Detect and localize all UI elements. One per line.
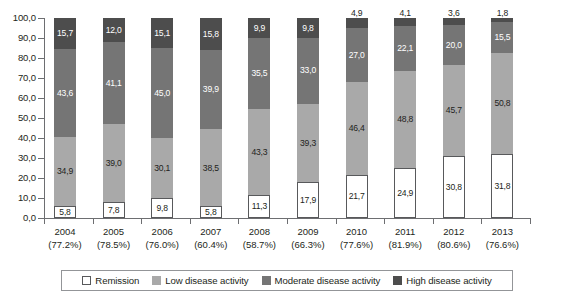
bar-segment-high[interactable]: 15,7 [54, 18, 76, 49]
bar-segment-remission[interactable]: 9,8 [151, 198, 173, 218]
legend-label: Remission [95, 275, 139, 286]
bar-2013[interactable]: 31,850,815,51,8 [491, 18, 513, 218]
bar-segment-moderate[interactable]: 43,6 [54, 49, 76, 136]
bar-segment-low[interactable]: 43,3 [248, 109, 270, 196]
bar-segment-remission[interactable]: 24,9 [394, 168, 416, 218]
x-axis-tick [530, 219, 531, 224]
bar-segment-value: 15,8 [203, 30, 219, 39]
bar-segment-remission[interactable]: 17,9 [297, 182, 319, 218]
bar-segment-value: 46,4 [349, 124, 365, 133]
bar-segment-remission[interactable]: 31,8 [491, 154, 513, 218]
bar-segment-low[interactable]: 38,5 [200, 129, 222, 206]
bar-segment-low[interactable]: 30,1 [151, 138, 173, 198]
bar-2005[interactable]: 7,839,041,112,0 [103, 18, 125, 218]
bar-segment-high[interactable]: 9,8 [297, 18, 319, 38]
bar-segment-value: 7,8 [108, 206, 119, 215]
y-axis-tick-label: 50,0 [0, 112, 36, 123]
bar-segment-value: 9,8 [302, 24, 313, 33]
bar-2011[interactable]: 24,948,822,14,1 [394, 18, 416, 218]
x-axis-tick [433, 219, 434, 224]
bar-2008[interactable]: 11,343,335,59,9 [248, 18, 270, 218]
bar-segment-high[interactable]: 3,6 [443, 18, 465, 25]
bar-segment-value: 4,9 [351, 8, 362, 18]
bar-2004[interactable]: 5,834,943,615,7 [54, 18, 76, 218]
y-axis-tick-label: 90,0 [0, 32, 36, 43]
bar-segment-moderate[interactable]: 41,1 [103, 42, 125, 124]
bar-segment-value: 22,1 [397, 44, 413, 53]
bar-segment-value: 45,7 [446, 106, 462, 115]
plot-area: 5,834,943,615,77,839,041,112,09,830,145,… [44, 18, 531, 218]
bar-segment-value: 39,0 [106, 159, 122, 168]
bar-segment-remission[interactable]: 11,3 [248, 195, 270, 218]
bar-segment-low[interactable]: 46,4 [346, 82, 368, 175]
bar-segment-remission[interactable]: 5,8 [200, 206, 222, 218]
bar-segment-remission[interactable]: 30,8 [443, 156, 465, 218]
bar-segment-moderate[interactable]: 33,0 [297, 38, 319, 104]
bar-segment-value: 41,1 [106, 79, 122, 88]
bar-segment-value: 34,9 [57, 167, 73, 176]
bar-segment-high[interactable]: 15,1 [151, 18, 173, 48]
bar-segment-value: 30,8 [446, 183, 462, 192]
y-axis-tick-label: 0,0 [0, 212, 36, 223]
bar-segment-value: 1,8 [497, 8, 508, 18]
bar-segment-value: 9,8 [157, 204, 168, 213]
bar-segment-moderate[interactable]: 35,5 [248, 38, 270, 109]
x-axis-tick [238, 219, 239, 224]
bar-segment-value: 33,0 [300, 66, 316, 75]
legend-label: Low disease activity [165, 275, 248, 286]
bar-segment-moderate[interactable]: 39,9 [200, 50, 222, 130]
bar-segment-moderate[interactable]: 27,0 [346, 28, 368, 82]
bar-segment-low[interactable]: 48,8 [394, 71, 416, 169]
legend-item-high[interactable]: High disease activity [393, 275, 491, 286]
bar-segment-value: 15,7 [57, 29, 73, 38]
y-axis-tick-label: 80,0 [0, 52, 36, 63]
bar-segment-value: 12,0 [106, 26, 122, 35]
bar-segment-remission[interactable]: 7,8 [103, 202, 125, 218]
legend-item-moderate[interactable]: Moderate disease activity [262, 275, 381, 286]
bar-segment-low[interactable]: 45,7 [443, 65, 465, 156]
bar-segment-high[interactable]: 9,9 [248, 18, 270, 38]
bar-2012[interactable]: 30,845,720,03,6 [443, 18, 465, 218]
bar-segment-low[interactable]: 39,0 [103, 124, 125, 202]
bar-segment-low[interactable]: 34,9 [54, 137, 76, 207]
bar-segment-low[interactable]: 50,8 [491, 53, 513, 155]
bar-segment-value: 9,9 [254, 24, 265, 33]
legend-swatch-remission-icon [82, 276, 91, 285]
bar-segment-high[interactable]: 4,1 [394, 18, 416, 26]
bar-segment-high[interactable]: 12,0 [103, 18, 125, 42]
bar-segment-moderate[interactable]: 45,0 [151, 48, 173, 138]
legend-label: Moderate disease activity [275, 275, 381, 286]
bar-2010[interactable]: 21,746,427,04,9 [346, 18, 368, 218]
bar-segment-moderate[interactable]: 15,5 [491, 22, 513, 53]
bar-2009[interactable]: 17,939,333,09,8 [297, 18, 319, 218]
bar-segment-value: 43,3 [251, 148, 267, 157]
legend-item-low[interactable]: Low disease activity [152, 275, 248, 286]
legend-label: High disease activity [406, 275, 491, 286]
bar-segment-value: 21,7 [349, 192, 365, 201]
bar-segment-high[interactable]: 1,8 [491, 18, 513, 22]
bar-segment-value: 50,8 [494, 99, 510, 108]
x-axis-tick [190, 219, 191, 224]
bar-segment-value: 39,9 [203, 85, 219, 94]
bar-segment-value: 24,9 [397, 189, 413, 198]
y-axis-tick-label: 20,0 [0, 172, 36, 183]
bar-2007[interactable]: 5,838,539,915,8 [200, 18, 222, 218]
bar-segment-high[interactable]: 15,8 [200, 18, 222, 50]
bar-segment-value: 48,8 [397, 115, 413, 124]
bar-segment-moderate[interactable]: 20,0 [443, 25, 465, 65]
y-axis-tick-label: 40,0 [0, 132, 36, 143]
bar-segment-remission[interactable]: 5,8 [54, 206, 76, 218]
x-axis-tick [44, 219, 45, 224]
bar-2006[interactable]: 9,830,145,015,1 [151, 18, 173, 218]
x-axis-tick [384, 219, 385, 224]
y-axis-tick-label: 10,0 [0, 192, 36, 203]
bar-segment-high[interactable]: 4,9 [346, 18, 368, 28]
legend-item-remission[interactable]: Remission [82, 275, 139, 286]
bar-segment-moderate[interactable]: 22,1 [394, 26, 416, 70]
bar-segment-value: 39,3 [300, 139, 316, 148]
x-axis-tick [141, 219, 142, 224]
y-axis-tick-label: 70,0 [0, 72, 36, 83]
bar-segment-low[interactable]: 39,3 [297, 104, 319, 183]
chart-legend: RemissionLow disease activityModerate di… [61, 270, 513, 291]
bar-segment-remission[interactable]: 21,7 [346, 175, 368, 218]
